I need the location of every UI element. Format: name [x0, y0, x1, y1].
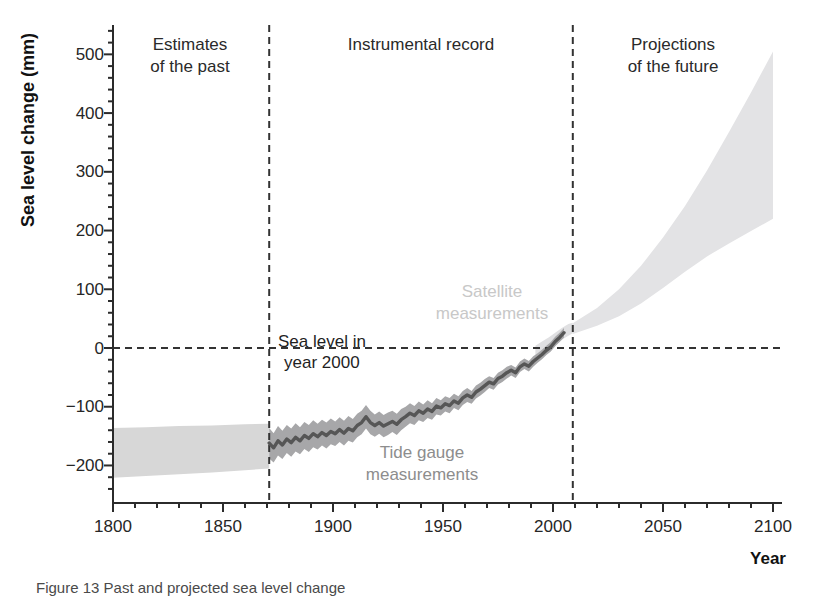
- region-label-line: of the future: [628, 56, 719, 78]
- satellite-series-label-line: measurements: [436, 303, 548, 325]
- x-axis-ticks: [113, 503, 773, 512]
- x-tick-label: 1950: [424, 517, 462, 536]
- zero-line-annotation-line: year 2000: [278, 352, 366, 373]
- x-axis-title: Year: [750, 548, 786, 569]
- zero-line-annotation: Sea level in year 2000: [278, 331, 366, 373]
- region-label-instrumental-record: Instrumental record: [348, 34, 494, 56]
- region-label-line: Projections: [628, 34, 719, 56]
- past-estimates-band: [113, 424, 269, 478]
- region-label-estimates-of-the-past: Estimates of the past: [150, 34, 229, 78]
- figure-caption: Figure 13 Past and projected sea level c…: [36, 577, 345, 598]
- y-tick-label: −100: [66, 397, 104, 416]
- tide-gauge-series-label-line: measurements: [366, 464, 478, 486]
- x-tick-label: 2100: [754, 517, 792, 536]
- projections-band: [573, 51, 773, 334]
- zero-line-annotation-line: Sea level in: [278, 331, 366, 352]
- y-tick-label: 500: [76, 45, 104, 64]
- region-label-line: of the past: [150, 56, 229, 78]
- region-label-line: Estimates: [150, 34, 229, 56]
- x-tick-label: 1800: [94, 517, 132, 536]
- y-tick-label: 200: [76, 221, 104, 240]
- y-axis-ticks: [104, 31, 113, 489]
- region-label-line: Instrumental record: [348, 34, 494, 56]
- y-axis-tick-labels: 5004003002001000−100−200: [66, 45, 104, 475]
- y-tick-label: 0: [95, 339, 104, 358]
- tide-gauge-series-label-line: Tide gauge: [366, 442, 478, 464]
- x-axis-tick-labels: 1800185019001950200020502100: [94, 517, 792, 536]
- x-tick-label: 1900: [314, 517, 352, 536]
- satellite-series-label-line: Satellite: [436, 281, 548, 303]
- y-tick-label: 300: [76, 162, 104, 181]
- satellite-series-label: Satellite measurements: [436, 281, 548, 325]
- tide-gauge-series-label: Tide gauge measurements: [366, 442, 478, 486]
- y-axis-title: Sea level change (mm): [18, 33, 39, 227]
- x-tick-label: 1850: [204, 517, 242, 536]
- y-tick-label: 400: [76, 104, 104, 123]
- x-tick-label: 2000: [534, 517, 572, 536]
- y-tick-label: −200: [66, 456, 104, 475]
- region-label-projections-of-the-future: Projections of the future: [628, 34, 719, 78]
- y-tick-label: 100: [76, 280, 104, 299]
- x-tick-label: 2050: [644, 517, 682, 536]
